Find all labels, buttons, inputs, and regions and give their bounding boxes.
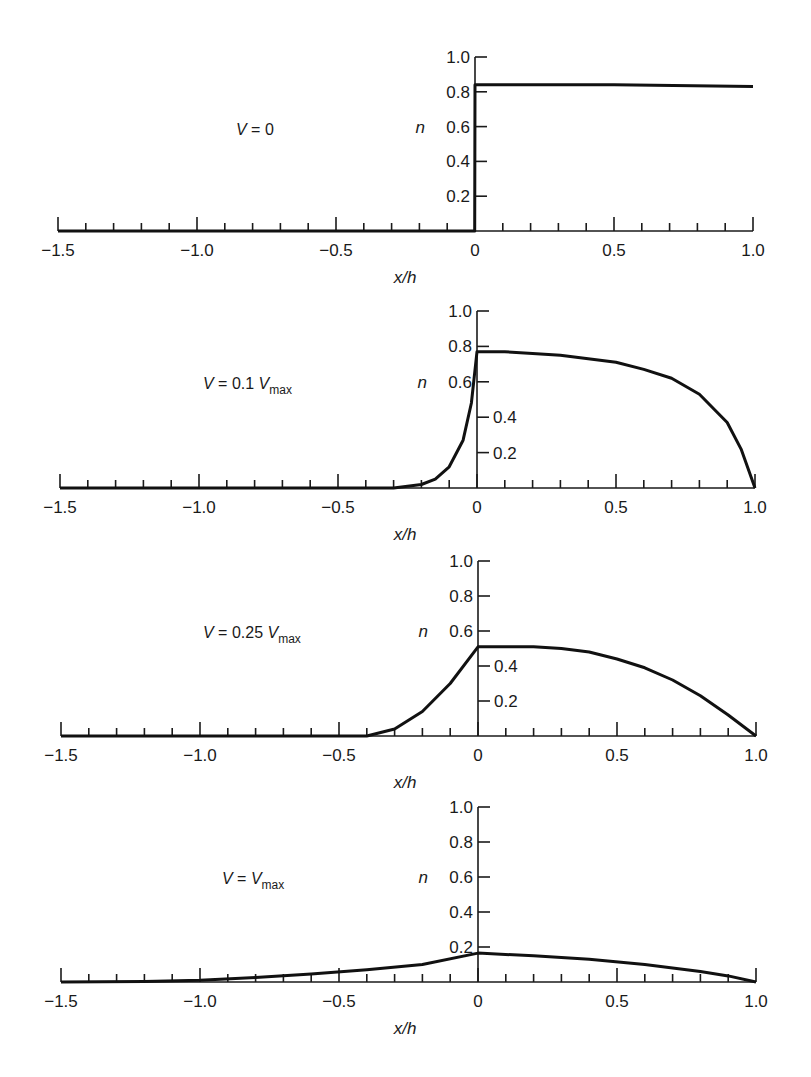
x-tick-label: −1.0 — [183, 992, 217, 1011]
x-tick-label: 0.5 — [604, 498, 628, 517]
y-tick-label: 0.2 — [494, 692, 518, 711]
y-tick-label: 1.0 — [448, 302, 472, 321]
x-tick-label: 1.0 — [744, 746, 768, 765]
x-tick-label: 0 — [470, 241, 479, 260]
x-tick-label: 0.5 — [605, 746, 629, 765]
y-tick-label: 0.8 — [449, 833, 473, 852]
x-axis-label: x/h — [393, 525, 417, 544]
y-axis-label: n — [419, 868, 428, 887]
y-tick-label: 0.6 — [449, 622, 473, 641]
x-tick-label: −1.5 — [44, 746, 78, 765]
x-tick-label: 0.5 — [602, 241, 626, 260]
x-tick-label: 0 — [473, 992, 482, 1011]
panel-2: −1.5−1.0−0.500.51.0x/h0.20.40.60.81.0nV … — [43, 302, 767, 544]
velocity-label: V = 0 — [236, 121, 274, 138]
y-tick-label: 1.0 — [449, 798, 473, 817]
panel-3: −1.5−1.0−0.500.51.0x/h0.20.40.60.81.0nV … — [44, 552, 768, 792]
x-axis-label: x/h — [393, 773, 417, 792]
x-tick-label: −1.0 — [180, 241, 214, 260]
y-tick-label: 0.8 — [449, 587, 473, 606]
x-tick-label: −1.5 — [41, 241, 75, 260]
y-tick-label: 0.4 — [494, 657, 518, 676]
x-tick-label: −0.5 — [322, 746, 356, 765]
y-tick-label: 0.2 — [493, 444, 517, 463]
x-axis-label: x/h — [393, 1019, 417, 1038]
density-curve — [60, 352, 755, 488]
x-tick-label: 0.5 — [605, 992, 629, 1011]
x-tick-label: 0 — [473, 746, 482, 765]
y-tick-label: 0.8 — [448, 337, 472, 356]
velocity-label: V = 0.25 Vmax — [203, 624, 301, 646]
y-tick-label: 0.4 — [449, 903, 473, 922]
x-tick-label: −1.5 — [43, 498, 77, 517]
y-tick-label: 0.6 — [449, 868, 473, 887]
x-tick-label: −0.5 — [321, 498, 355, 517]
x-tick-label: 1.0 — [741, 241, 765, 260]
density-curve — [58, 85, 753, 231]
x-axis-label: x/h — [393, 268, 417, 287]
y-tick-label: 1.0 — [449, 552, 473, 571]
x-tick-label: −0.5 — [322, 992, 356, 1011]
y-axis-label: n — [419, 622, 428, 641]
y-axis-label: n — [418, 373, 427, 392]
x-tick-label: −1.5 — [44, 992, 78, 1011]
panel-1: −1.5−1.0−0.500.51.0x/h0.20.40.60.81.0nV … — [41, 48, 765, 287]
x-tick-label: −1.0 — [183, 746, 217, 765]
y-tick-label: 1.0 — [446, 48, 470, 67]
y-tick-label: 0.8 — [446, 83, 470, 102]
y-tick-label: 0.4 — [493, 408, 517, 427]
x-tick-label: 1.0 — [743, 498, 767, 517]
y-tick-label: 0.6 — [448, 373, 472, 392]
x-tick-label: 1.0 — [744, 992, 768, 1011]
x-tick-label: 0 — [472, 498, 481, 517]
x-tick-label: −1.0 — [182, 498, 216, 517]
velocity-label: V = 0.1 Vmax — [203, 375, 292, 397]
y-tick-label: 0.2 — [446, 187, 470, 206]
y-axis-label: n — [416, 118, 425, 137]
density-curve — [61, 953, 756, 982]
panel-4: −1.5−1.0−0.500.51.0x/h0.20.40.60.81.0nV … — [44, 798, 768, 1038]
y-tick-label: 0.4 — [446, 152, 470, 171]
y-tick-label: 0.6 — [446, 118, 470, 137]
density-curve — [61, 647, 756, 736]
x-tick-label: −0.5 — [319, 241, 353, 260]
velocity-label: V = Vmax — [222, 870, 284, 892]
figure-canvas: −1.5−1.0−0.500.51.0x/h0.20.40.60.81.0nV … — [0, 0, 811, 1077]
